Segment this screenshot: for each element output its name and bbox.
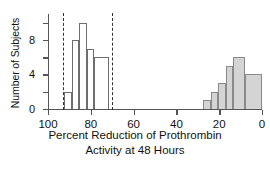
- bar-untreated-group-0: [64, 92, 71, 109]
- y-tick-8: 8: [43, 40, 48, 41]
- x-axis-title-line2: Activity at 48 Hours: [0, 143, 270, 158]
- y-tick-label-4: 4: [29, 69, 35, 80]
- y-axis-title: Number of Subjects: [9, 8, 21, 118]
- upper-reference-line: [112, 13, 113, 110]
- x-tick-100: [48, 110, 49, 115]
- x-tick-60: [134, 110, 135, 115]
- bar-treated-group-1: [211, 92, 218, 109]
- x-tick-0: [262, 110, 263, 115]
- y-axis-line: [48, 14, 49, 110]
- x-axis-title: Percent Reduction of Prothrombin Activit…: [0, 128, 270, 158]
- plot-area: 048 100806040200: [48, 14, 262, 110]
- bar-treated-group-5: [245, 74, 262, 109]
- x-tick-20: [219, 110, 220, 115]
- bar-untreated-group-3: [87, 49, 94, 109]
- bar-treated-group-0: [203, 100, 210, 109]
- bar-untreated-group-4: [94, 57, 109, 109]
- x-tick-40: [176, 110, 177, 115]
- y-tick-label-0: 0: [29, 104, 35, 115]
- bar-treated-group-3: [226, 66, 233, 109]
- x-axis-title-line1: Percent Reduction of Prothrombin: [0, 128, 270, 143]
- bar-treated-group-4: [233, 57, 245, 109]
- y-tick-10: [43, 23, 48, 24]
- bar-treated-group-2: [218, 83, 225, 109]
- y-tick-2: [43, 92, 48, 93]
- x-tick-80: [91, 110, 92, 115]
- histogram-figure: Number of Subjects 048 100806040200 Perc…: [0, 0, 270, 180]
- y-tick-6: [43, 57, 48, 58]
- bar-untreated-group-2: [79, 23, 86, 109]
- bar-untreated-group-1: [72, 40, 79, 109]
- x-axis-line: [48, 109, 262, 110]
- y-tick-4: 4: [43, 74, 48, 75]
- y-tick-label-8: 8: [29, 34, 35, 45]
